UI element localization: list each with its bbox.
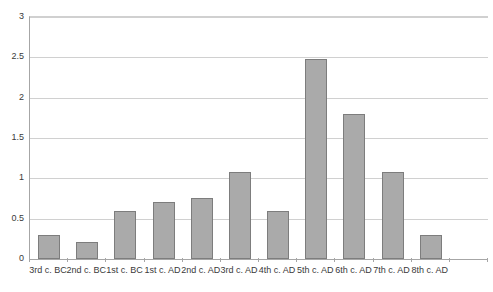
- x-tick-label: 3rd c. BC: [29, 264, 67, 276]
- y-tick-label: 1.5: [0, 133, 24, 142]
- bar[interactable]: [420, 235, 442, 259]
- bar[interactable]: [191, 198, 213, 259]
- x-tick-label: 2nd c. BC: [66, 264, 106, 276]
- bar[interactable]: [305, 59, 327, 259]
- x-tick: [220, 258, 221, 262]
- bar-slot: [335, 17, 373, 259]
- bar-slot: [183, 17, 221, 259]
- bar-slot: [68, 17, 106, 259]
- x-tick-label: 6th c. AD: [335, 264, 372, 276]
- x-tick: [67, 258, 68, 262]
- bar-slot: [145, 17, 183, 259]
- x-tick: [144, 258, 145, 262]
- x-tick-label: 3rd c. AD: [220, 264, 257, 276]
- bar[interactable]: [267, 211, 289, 259]
- bar[interactable]: [38, 235, 60, 259]
- x-tick: [449, 258, 450, 262]
- y-tick-label: 3: [0, 12, 24, 21]
- y-tick-label: 2: [0, 92, 24, 101]
- bar-chart: 00.511.522.53 3rd c. BC2nd c. BC1st c. B…: [0, 0, 493, 292]
- y-tick-label: 0.5: [0, 213, 24, 222]
- plot-area: [29, 16, 488, 259]
- x-tick: [258, 258, 259, 262]
- x-tick: [29, 258, 30, 262]
- bar[interactable]: [229, 172, 251, 259]
- bar-slot: [297, 17, 335, 259]
- y-tick-label: 1: [0, 173, 24, 182]
- bars-series: [30, 17, 488, 259]
- bar[interactable]: [343, 114, 365, 259]
- y-tick-label: 0: [0, 254, 24, 263]
- x-tick: [411, 258, 412, 262]
- x-tick: [334, 258, 335, 262]
- bar[interactable]: [382, 172, 404, 259]
- bar-slot: [106, 17, 144, 259]
- x-tick: [296, 258, 297, 262]
- x-tick: [105, 258, 106, 262]
- x-tick-label: 5th c. AD: [297, 264, 334, 276]
- x-tick: [182, 258, 183, 262]
- bar-slot: [30, 17, 68, 259]
- bar[interactable]: [114, 211, 136, 259]
- y-tick-label: 2.5: [0, 52, 24, 61]
- x-tick-label: 4th c. AD: [259, 264, 296, 276]
- x-tick-label: 1st c. BC: [106, 264, 143, 276]
- x-tick-label: 8th c. AD: [411, 264, 448, 276]
- bar[interactable]: [76, 242, 98, 259]
- bar-slot: [412, 17, 450, 259]
- x-tick-label: 2nd c. AD: [181, 264, 220, 276]
- bar[interactable]: [153, 202, 175, 259]
- x-tick-label: 7th c. AD: [373, 264, 410, 276]
- bar-slot: [221, 17, 259, 259]
- x-axis-ticks: [29, 258, 487, 263]
- y-axis: 00.511.522.53: [0, 0, 24, 292]
- x-tick: [487, 258, 488, 262]
- bar-slot: [259, 17, 297, 259]
- x-tick: [373, 258, 374, 262]
- x-tick-label: 1st c. AD: [145, 264, 181, 276]
- x-axis: 3rd c. BC2nd c. BC1st c. BC1st c. AD2nd …: [29, 264, 487, 280]
- bar-slot: [374, 17, 412, 259]
